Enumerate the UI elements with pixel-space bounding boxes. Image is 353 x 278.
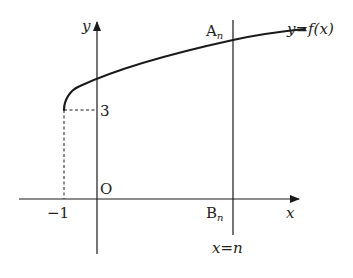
y-axis-label: y: [82, 19, 90, 34]
origin-label: O: [100, 182, 112, 197]
point-a-subscript: n: [217, 30, 223, 41]
diagram-graphics: [0, 0, 353, 278]
x-tick-minus-1: −1: [47, 206, 69, 221]
point-b-label: Bn: [206, 206, 223, 223]
x-axis-label: x: [286, 206, 294, 221]
point-b-name: B: [206, 204, 217, 222]
function-diagram: y x O 3 −1 An Bn y=f(x) x=n: [0, 0, 353, 278]
point-a-label: An: [206, 24, 223, 41]
function-curve: [64, 29, 305, 110]
vertical-line-label: x=n: [212, 241, 243, 256]
y-tick-3: 3: [100, 104, 110, 119]
function-label: y=f(x): [287, 22, 334, 37]
point-a-name: A: [206, 22, 217, 40]
point-b-subscript: n: [217, 212, 223, 223]
